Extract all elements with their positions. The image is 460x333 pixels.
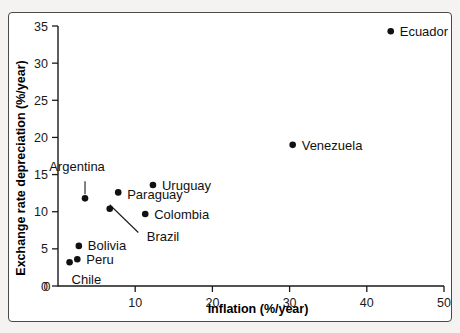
data-point-label: Ecuador: [400, 24, 449, 39]
data-point-label: Peru: [86, 252, 113, 267]
scatter-plot: 05101520253035 01020304050 ChilePeruBoli…: [9, 13, 453, 323]
y-axis-title: Exchange rate depreciation (%/year): [14, 60, 28, 275]
x-tick-label: 0: [44, 280, 51, 294]
y-axis-tick-labels: 05101520253035: [34, 20, 48, 294]
data-point-label: Venezuela: [302, 138, 363, 153]
y-tick-label: 30: [34, 57, 48, 71]
figure-frame: 05101520253035 01020304050 ChilePeruBoli…: [8, 12, 452, 322]
y-tick-label: 15: [34, 168, 48, 182]
x-tick-label: 10: [128, 296, 142, 310]
y-tick-label: 35: [34, 20, 48, 34]
y-tick-label: 20: [34, 131, 48, 145]
data-point: [115, 189, 122, 196]
data-point: [387, 28, 394, 35]
x-tick-label: 50: [437, 296, 451, 310]
data-point-labels: ChilePeruBoliviaArgentinaBrazilParaguayC…: [49, 24, 449, 287]
data-point: [289, 142, 296, 149]
data-point-label: Colombia: [154, 207, 210, 222]
y-tick-label: 10: [34, 205, 48, 219]
x-tick-label: 40: [360, 296, 374, 310]
y-tick-label: 5: [41, 242, 48, 256]
data-point-label: Uruguay: [162, 178, 212, 193]
data-point: [74, 256, 81, 263]
data-point: [82, 195, 89, 202]
chart-svg: 05101520253035 01020304050 ChilePeruBoli…: [9, 13, 453, 323]
data-point: [76, 243, 83, 250]
data-point-label: Chile: [72, 272, 102, 287]
data-point: [142, 211, 149, 218]
data-point-label: Bolivia: [88, 238, 127, 253]
data-point: [66, 259, 73, 266]
data-point: [106, 205, 113, 212]
x-axis-title: Inflation (%/year): [208, 302, 309, 316]
data-point-label: Argentina: [49, 159, 105, 174]
y-tick-label: 25: [34, 94, 48, 108]
data-point-label: Brazil: [147, 229, 180, 244]
